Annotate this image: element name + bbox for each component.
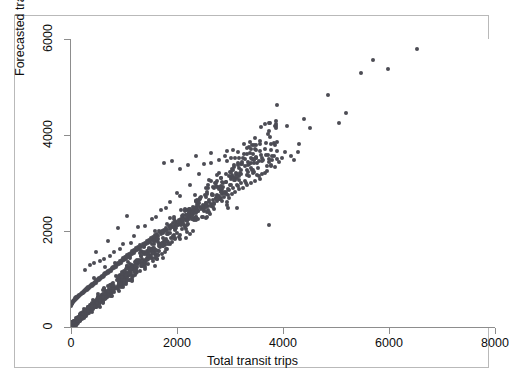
data-point	[258, 139, 262, 143]
data-point	[78, 319, 82, 323]
data-point	[265, 164, 269, 168]
x-axis-title: Total transit trips	[15, 354, 490, 368]
data-point	[308, 126, 312, 130]
data-point	[154, 215, 158, 219]
x-tick-label-2000: 2000	[163, 336, 191, 350]
data-point	[241, 186, 245, 190]
data-point	[161, 256, 165, 260]
data-point	[98, 259, 102, 263]
data-point	[302, 117, 306, 121]
data-point	[90, 304, 94, 308]
data-point	[153, 264, 157, 268]
data-point	[371, 58, 375, 62]
data-point	[296, 150, 300, 154]
data-point	[185, 219, 189, 223]
data-point	[83, 268, 87, 272]
data-point	[140, 257, 144, 261]
data-point	[190, 214, 194, 218]
data-point	[256, 166, 260, 170]
data-point	[130, 279, 134, 283]
data-point	[128, 256, 132, 260]
data-point	[125, 264, 129, 268]
data-point	[209, 161, 213, 165]
data-point	[253, 136, 257, 140]
data-point	[280, 156, 284, 160]
data-point	[94, 250, 98, 254]
data-point	[231, 148, 235, 152]
data-point	[102, 257, 106, 261]
data-point	[225, 149, 229, 153]
data-point	[252, 158, 256, 162]
data-point	[186, 163, 190, 167]
y-tick-label-2000: 2000	[41, 213, 55, 247]
data-point	[136, 225, 140, 229]
x-tick-label-8000: 8000	[481, 336, 509, 350]
data-point	[125, 214, 129, 218]
data-point	[150, 217, 154, 221]
data-point	[146, 262, 150, 266]
data-point	[163, 250, 167, 254]
data-point	[163, 240, 167, 244]
data-point	[267, 223, 271, 227]
data-point	[215, 173, 219, 177]
scatter-plot-area	[71, 39, 495, 327]
y-tick-label-4000: 4000	[41, 117, 55, 151]
data-point	[245, 168, 249, 172]
data-point	[206, 183, 210, 187]
data-point	[221, 181, 225, 185]
data-point	[159, 208, 163, 212]
data-point	[232, 178, 236, 182]
data-point	[143, 224, 147, 228]
data-point	[237, 156, 241, 160]
y-tick-2000	[64, 231, 70, 232]
data-point	[243, 164, 247, 168]
data-point	[129, 241, 133, 245]
data-point	[217, 187, 221, 191]
data-point	[344, 111, 348, 115]
data-point	[102, 292, 106, 296]
data-point	[168, 216, 172, 220]
y-tick-0	[64, 327, 70, 328]
data-point	[178, 194, 182, 198]
data-point	[252, 170, 256, 174]
data-point	[174, 226, 178, 230]
data-point	[230, 192, 234, 196]
y-tick-6000	[64, 39, 70, 40]
data-point	[255, 173, 259, 177]
data-point	[269, 164, 273, 168]
data-point	[127, 272, 131, 276]
x-tick-6000	[389, 328, 390, 334]
data-point	[180, 227, 184, 231]
data-point	[229, 183, 233, 187]
data-point	[245, 152, 249, 156]
data-point	[175, 231, 179, 235]
data-point	[196, 203, 200, 207]
data-point	[230, 173, 234, 177]
data-point	[222, 190, 226, 194]
y-tick-label-0: 0	[41, 309, 55, 343]
data-point	[184, 236, 188, 240]
data-point	[152, 246, 156, 250]
data-point	[337, 121, 341, 125]
data-point	[285, 124, 289, 128]
data-point	[178, 237, 182, 241]
data-point	[269, 148, 273, 152]
data-point	[219, 176, 223, 180]
data-point	[274, 126, 278, 130]
data-point	[138, 269, 142, 273]
data-point	[292, 158, 296, 162]
data-point	[179, 208, 183, 212]
data-point	[178, 167, 182, 171]
data-point	[253, 179, 257, 183]
data-point	[263, 147, 267, 151]
data-point	[359, 71, 363, 75]
data-point	[168, 200, 172, 204]
data-point	[119, 285, 123, 289]
data-point	[108, 254, 112, 258]
data-point	[225, 159, 229, 163]
data-point	[191, 205, 195, 209]
data-point	[188, 183, 192, 187]
data-point	[188, 232, 192, 236]
data-point	[249, 181, 253, 185]
